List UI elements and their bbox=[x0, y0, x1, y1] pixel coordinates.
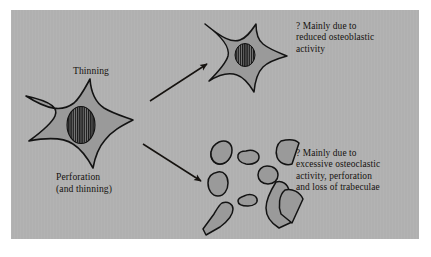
fragment-top-center bbox=[238, 150, 259, 164]
annotation-osteoclastic-line4: and loss of trabeculae bbox=[296, 182, 380, 193]
annotation-osteoclastic: ? Mainly due to excessive osteoclastic a… bbox=[296, 148, 380, 194]
annotation-osteoclastic-line2: excessive osteoclastic bbox=[296, 159, 380, 170]
annotation-osteoclastic-line1: ? Mainly due to bbox=[296, 148, 380, 159]
annotation-osteoblastic-line2: reduced osteoblastic bbox=[296, 32, 374, 43]
osteocyte-marker-thin bbox=[235, 44, 255, 67]
perforation-arrow bbox=[143, 144, 201, 181]
osteocyte-marker bbox=[67, 107, 95, 144]
perforation-label-line2: (and thinning) bbox=[56, 183, 112, 195]
annotation-osteoclastic-line3: activity, perforation bbox=[296, 171, 380, 182]
fragment-mid-right-small bbox=[258, 166, 278, 184]
thinned-trabecula bbox=[205, 24, 287, 92]
annotation-osteoblastic-line1: ? Mainly due to bbox=[296, 21, 374, 32]
annotation-osteoblastic-line3: activity bbox=[296, 44, 374, 55]
fragment-mid-left bbox=[208, 172, 228, 196]
fragment-top-left-b bbox=[211, 141, 232, 164]
perforated-trabecula-fragments bbox=[203, 140, 303, 235]
normal-trabecula bbox=[26, 79, 133, 168]
fragment-center-small bbox=[238, 195, 257, 206]
perforation-label: Perforation (and thinning) bbox=[56, 171, 112, 194]
thinning-arrow bbox=[150, 64, 207, 101]
figure-root: Thinning Perforation (and thinning) ? Ma… bbox=[0, 0, 431, 257]
thinning-label: Thinning bbox=[73, 65, 109, 77]
annotation-osteoblastic: ? Mainly due to reduced osteoblastic act… bbox=[296, 21, 374, 55]
perforation-label-line1: Perforation bbox=[56, 171, 112, 183]
fragment-bottom-left bbox=[203, 202, 233, 235]
